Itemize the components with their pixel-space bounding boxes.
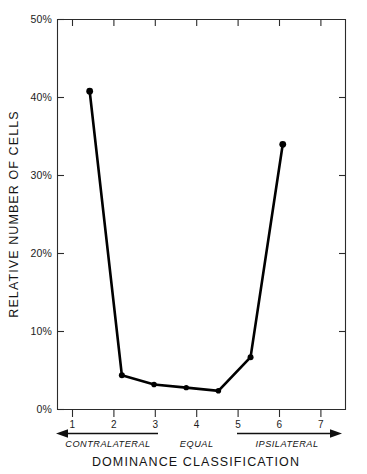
data-point	[279, 141, 286, 148]
x-tick-label-1: 1	[70, 419, 76, 430]
y-tick-label-40: 40%	[30, 91, 52, 103]
data-point	[151, 382, 157, 388]
contralateral-range-arrow	[56, 429, 158, 438]
ocular-dominance-histogram-figure: 50% 40% 30% 20% 10% 0% 1 2 3 4 5 6 7	[0, 0, 367, 474]
x-tick-label-6: 6	[277, 419, 283, 430]
y-tick-label-10: 10%	[30, 325, 52, 337]
line-chart: 50% 40% 30% 20% 10% 0% 1 2 3 4 5 6 7	[0, 0, 367, 474]
data-point	[216, 388, 222, 394]
x-tick-label-4: 4	[194, 419, 200, 430]
x-tick-label-2: 2	[111, 419, 117, 430]
arrow-left-head-icon	[56, 429, 68, 438]
y-tick-label-20: 20%	[30, 247, 52, 259]
y-tick-label-30: 30%	[30, 169, 52, 181]
region-label-contralateral: CONTRALATERAL	[65, 439, 150, 449]
y-axis-ticks-left	[58, 20, 65, 410]
x-axis-ticks-top	[73, 20, 321, 27]
y-tick-label-0: 0%	[36, 403, 52, 415]
data-series	[86, 88, 286, 394]
region-label-ipsilateral: IPSILATERAL	[255, 439, 318, 449]
y-tick-label-50: 50%	[30, 13, 52, 25]
series-line	[90, 91, 283, 391]
axis-box	[58, 20, 346, 410]
x-tick-label-7: 7	[318, 419, 324, 430]
x-axis-title: DOMINANCE CLASSIFICATION	[92, 455, 300, 469]
data-point	[248, 354, 254, 360]
x-tick-labels: 1 2 3 4 5 6 7	[70, 419, 324, 430]
x-axis-ticks-bottom	[73, 410, 321, 418]
x-tick-label-5: 5	[235, 419, 241, 430]
series-markers	[86, 88, 286, 394]
data-point	[86, 88, 93, 95]
data-point	[119, 372, 125, 378]
plot-frame	[58, 20, 346, 410]
y-axis-title: RELATIVE NUMBER OF CELLS	[7, 110, 21, 317]
region-labels: CONTRALATERAL EQUAL IPSILATERAL	[65, 439, 318, 449]
data-point	[184, 385, 189, 390]
arrow-right-head-icon	[330, 429, 342, 438]
ipsilateral-range-arrow	[237, 429, 342, 438]
x-tick-label-3: 3	[152, 419, 158, 430]
y-axis-ticks-right	[339, 98, 346, 332]
y-tick-labels: 50% 40% 30% 20% 10% 0%	[30, 13, 52, 415]
region-label-equal: EQUAL	[180, 439, 214, 449]
